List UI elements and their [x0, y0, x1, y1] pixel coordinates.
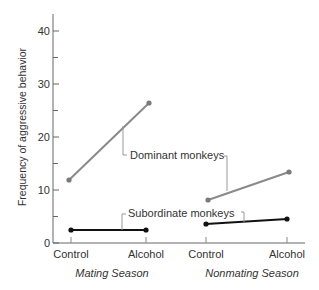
annotation-dominant: Dominant monkeys	[130, 149, 225, 161]
svg-text:10: 10	[38, 184, 50, 196]
x-label-mating-alcohol: Alcohol	[128, 248, 164, 260]
x-label-nonmating-control: Control	[188, 248, 223, 260]
y-ticks	[53, 31, 59, 243]
y-axis-title: Frequency of aggressive behavior	[16, 47, 28, 206]
svg-text:40: 40	[38, 25, 50, 37]
svg-text:30: 30	[38, 78, 50, 90]
svg-text:20: 20	[38, 131, 50, 143]
svg-text:0: 0	[44, 237, 50, 249]
group-label-nonmating: Nonmating Season	[205, 267, 299, 279]
x-ticks	[71, 237, 287, 243]
x-label-nonmating-alcohol: Alcohol	[269, 248, 305, 260]
chart: Frequency of aggressive behavior 0 10 20…	[0, 0, 319, 290]
group-label-mating: Mating Season	[75, 267, 148, 279]
y-tick-labels: 0 10 20 30 40	[38, 25, 50, 249]
x-label-mating-control: Control	[53, 248, 88, 260]
annotation-subordinate: Subordinate monkeys	[128, 207, 235, 219]
